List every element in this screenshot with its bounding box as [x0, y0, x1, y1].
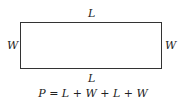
formula-term: W — [136, 87, 147, 100]
formula-operator: + — [120, 87, 136, 100]
width-label-right: W — [165, 40, 176, 51]
rectangle-shape — [20, 22, 162, 69]
formula-operator: = — [46, 87, 62, 100]
width-label-left: W — [7, 40, 18, 51]
perimeter-formula: P = L + W + L + W — [0, 88, 186, 99]
formula-term: P — [38, 87, 45, 100]
formula-operator: + — [69, 87, 85, 100]
formula-term: W — [85, 87, 96, 100]
length-label-bottom: L — [88, 73, 95, 84]
length-label-top: L — [88, 8, 95, 19]
perimeter-diagram: L L W W P = L + W + L + W — [0, 0, 186, 111]
formula-operator: + — [97, 87, 113, 100]
